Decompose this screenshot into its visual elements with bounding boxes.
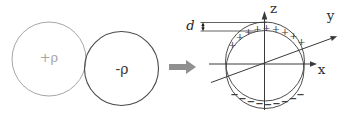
- plus-sign: +: [262, 22, 270, 33]
- positive-sphere-label: +ρ: [40, 50, 59, 65]
- right-offset-spheres-group: x z y d +++++++++ −−−−−−−−−: [186, 0, 337, 110]
- x-axis-label: x: [318, 61, 326, 77]
- offset-double-arrow-icon: [201, 22, 204, 31]
- z-axis-label: z: [270, 0, 277, 16]
- plus-signs-group: +++++++++: [228, 22, 305, 51]
- z-axis-arrowhead-icon: [262, 11, 268, 20]
- y-axis-arrowhead-icon: [330, 36, 337, 41]
- minus-sign: −: [264, 99, 272, 110]
- y-axis-label: y: [326, 7, 335, 23]
- minus-sign: −: [238, 93, 246, 104]
- plus-sign: +: [244, 26, 252, 37]
- x-axis-arrowhead-icon: [310, 61, 317, 67]
- plus-sign: +: [272, 23, 280, 34]
- plus-sign: +: [236, 31, 244, 42]
- plus-sign: +: [281, 26, 289, 37]
- minus-sign: −: [247, 96, 255, 107]
- minus-sign: −: [296, 89, 304, 100]
- minus-signs-group: −−−−−−−−−: [230, 89, 304, 110]
- offset-distance-label: d: [186, 18, 194, 33]
- left-spheres-group: +ρ -ρ: [12, 22, 159, 106]
- minus-sign: −: [255, 98, 263, 109]
- transform-arrow-icon: [169, 60, 196, 74]
- plus-sign: +: [297, 36, 305, 47]
- diagram-canvas: +ρ -ρ x z y: [0, 0, 351, 116]
- plus-sign: +: [253, 23, 261, 34]
- negative-sphere-label: -ρ: [116, 61, 129, 77]
- physics-diagram: +ρ -ρ x z y: [0, 0, 351, 116]
- minus-sign: −: [272, 98, 280, 109]
